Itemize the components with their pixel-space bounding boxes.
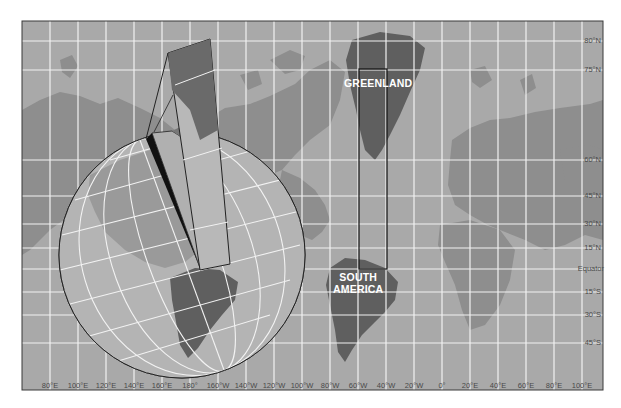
lon-label: 160°E [152, 381, 173, 390]
lon-label: 100°E [572, 381, 593, 390]
lon-label: 160°W [207, 381, 230, 390]
lon-label: 140°W [235, 381, 258, 390]
lon-label: 40°E [490, 381, 506, 390]
lon-label: 80°E [546, 381, 562, 390]
lat-label-80n: 80°N [584, 36, 601, 45]
lat-label-equator: Equator [578, 264, 604, 273]
lon-label: 100°W [291, 381, 314, 390]
world-map [0, 0, 621, 408]
lon-label: 0° [438, 381, 445, 390]
lon-label: 120°E [96, 381, 117, 390]
label-greenland: GREENLAND [344, 78, 412, 90]
lon-label: 140°E [124, 381, 145, 390]
lon-label: 120°W [263, 381, 286, 390]
lon-label: 80°E [42, 381, 58, 390]
lat-label-15s: 15°S [585, 287, 601, 296]
lat-label-30n: 30°N [584, 219, 601, 228]
lat-label-30s: 30°S [585, 310, 601, 319]
lat-label-60n: 60°N [584, 155, 601, 164]
lon-label: 100°E [68, 381, 89, 390]
lon-label: 60°W [349, 381, 367, 390]
lon-label: 20°E [462, 381, 478, 390]
lon-label: 40°W [377, 381, 395, 390]
lon-label: 80°W [321, 381, 339, 390]
lon-label: 20°W [405, 381, 423, 390]
lon-label: 180° [182, 381, 198, 390]
lon-label: 60°E [518, 381, 534, 390]
label-south-america: SOUTH AMERICA [333, 272, 383, 295]
lat-label-45s: 45°S [585, 338, 601, 347]
lat-label-45n: 45°N [584, 191, 601, 200]
lat-label-75n: 75°N [584, 65, 601, 74]
lat-label-15n: 15°N [584, 243, 601, 252]
